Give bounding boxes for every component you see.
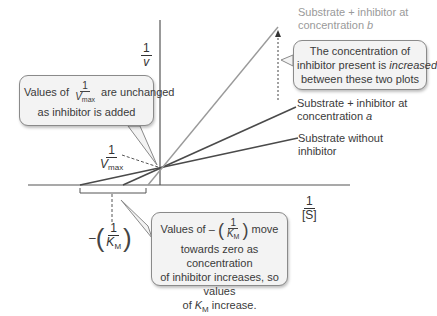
km-sub: M bbox=[114, 242, 121, 251]
label-without-line1: Substrate without bbox=[298, 132, 383, 145]
vmax-frac-den: Vmax bbox=[73, 92, 97, 105]
x-intercept-denominator: KM bbox=[104, 236, 123, 253]
conc-callout-line2: inhibitor present is increased bbox=[297, 58, 423, 72]
km-callout-line4: of KM increase. bbox=[155, 298, 284, 316]
vmax-callout: Values of 1 Vmax are unchanged as inhibi… bbox=[19, 75, 154, 126]
conc-callout-line1: The concentration of bbox=[297, 44, 423, 58]
vmax-callout-fraction: 1 Vmax bbox=[73, 81, 97, 105]
conc-callout-emphasis: increased bbox=[389, 59, 437, 71]
vmax-callout-tail bbox=[128, 126, 157, 165]
label-a-text: concentration bbox=[297, 110, 366, 122]
km-line4-sub: M bbox=[202, 305, 209, 314]
km-callout-prefix: Values of – bbox=[161, 223, 215, 235]
km-callout-line1: Values of – ( 1 KM ) move bbox=[155, 218, 284, 242]
label-without-line2: inhibitor bbox=[298, 145, 383, 158]
label-inhibitor-b-line2: concentration b bbox=[298, 19, 408, 32]
label-b-var: b bbox=[367, 19, 373, 31]
vmax-frac-var: V bbox=[75, 91, 82, 102]
vmax-callout-prefix: Values of bbox=[24, 86, 69, 98]
y-intercept-numerator: 1 bbox=[106, 144, 117, 158]
y-axis-label: 1 v bbox=[141, 42, 152, 69]
x-axis-label-numerator: 1 bbox=[304, 195, 315, 209]
label-inhibitor-b-line1: Substrate + inhibitor at bbox=[298, 6, 408, 19]
label-inhibitor-a-line2: concentration a bbox=[297, 110, 407, 123]
label-without-inhibitor: Substrate without inhibitor bbox=[298, 132, 383, 158]
km-callout-suffix: move bbox=[251, 223, 278, 235]
x-intercept-minus: – bbox=[89, 231, 96, 245]
label-inhibitor-a-line1: Substrate + inhibitor at bbox=[297, 97, 407, 110]
km-callout-lparen: ( bbox=[218, 220, 224, 240]
vmax-sub: max bbox=[108, 163, 123, 172]
km-frac-den: KM bbox=[225, 229, 242, 242]
x-intercept-label: – ( 1 KM ) bbox=[89, 222, 132, 253]
vmax-callout-line1: Values of 1 Vmax are unchanged bbox=[24, 81, 149, 105]
km-range-bracket bbox=[80, 188, 146, 193]
label-a-var: a bbox=[366, 110, 372, 122]
label-inhibitor-a: Substrate + inhibitor at concentration a bbox=[297, 97, 407, 123]
concentration-callout: The concentration of inhibitor present i… bbox=[293, 40, 427, 90]
km-line4-pre: of bbox=[183, 299, 195, 311]
km-callout: Values of – ( 1 KM ) move towards zero a… bbox=[151, 212, 288, 286]
y-axis-var: v bbox=[143, 55, 149, 69]
km-callout-line3: of inhibitor increases, so values bbox=[155, 270, 284, 298]
line-inhibitor-b bbox=[148, 27, 278, 185]
y-axis-label-denominator: v bbox=[141, 56, 151, 69]
right-paren: ) bbox=[123, 229, 132, 247]
km-callout-line2: towards zero as concentration bbox=[155, 242, 284, 270]
km-frac-sub: M bbox=[234, 233, 240, 240]
km-line4-post: increase. bbox=[209, 299, 257, 311]
vmax-var: V bbox=[100, 157, 108, 171]
y-intercept-label: 1 Vmax bbox=[98, 144, 125, 174]
conc-callout-line2-text: inhibitor present is bbox=[297, 59, 389, 71]
conc-callout-tail bbox=[281, 55, 293, 66]
conc-callout-line3: between these two plots bbox=[297, 72, 423, 86]
km-callout-fraction: 1 KM bbox=[225, 218, 242, 242]
x-intercept-fraction: 1 KM bbox=[104, 222, 123, 253]
x-intercept-numerator: 1 bbox=[108, 222, 119, 236]
label-inhibitor-b: Substrate + inhibitor at concentration b bbox=[298, 6, 408, 32]
y-axis-label-numerator: 1 bbox=[141, 42, 152, 56]
x-axis-label: 1 [S] bbox=[300, 195, 319, 222]
km-frac-var: K bbox=[227, 228, 234, 239]
left-paren: ( bbox=[96, 229, 105, 247]
label-b-text: concentration bbox=[298, 19, 367, 31]
vmax-callout-line2: as inhibitor is added bbox=[24, 105, 149, 119]
km-line4-var: K bbox=[195, 299, 202, 311]
x-axis-label-denominator: [S] bbox=[300, 209, 319, 222]
arrow-head-icon bbox=[275, 30, 281, 37]
vmax-frac-sub: max bbox=[82, 96, 95, 103]
vmax-callout-suffix: are unchanged bbox=[101, 86, 174, 98]
km-callout-rparen: ) bbox=[242, 220, 248, 240]
y-intercept-denominator: Vmax bbox=[98, 158, 125, 174]
